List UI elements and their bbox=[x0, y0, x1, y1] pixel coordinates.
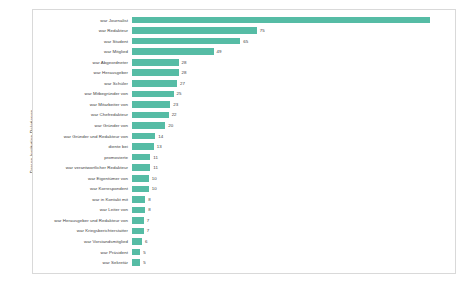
bar-category-label: war Korrespondent bbox=[34, 186, 132, 191]
bar-category-label: promovierte bbox=[34, 155, 132, 160]
bar-value-label: 7 bbox=[144, 228, 150, 233]
bar-value-label: 179 bbox=[440, 18, 450, 23]
bar-rect bbox=[132, 259, 140, 266]
bar-rect bbox=[132, 154, 150, 161]
bar-row: war Chefredakteur22 bbox=[34, 111, 450, 119]
bar-track: 7 bbox=[132, 227, 450, 235]
bar-row: war Präsident5 bbox=[34, 248, 450, 256]
bar-value-label: 8 bbox=[145, 197, 151, 202]
bar-value-label: 20 bbox=[165, 123, 173, 128]
bar-value-label: 65 bbox=[240, 39, 248, 44]
bar-track: 6 bbox=[132, 237, 450, 245]
bar-track: 20 bbox=[132, 121, 450, 129]
bar-row: war Mitbegründer von25 bbox=[34, 90, 450, 98]
bar-track: 28 bbox=[132, 58, 450, 66]
bar-row: war in Kontakt mit8 bbox=[34, 195, 450, 203]
bar-row: war Gründer und Redakteur von14 bbox=[34, 132, 450, 140]
bar-track: 11 bbox=[132, 153, 450, 161]
bar-row: war Kriegsberichterstatter7 bbox=[34, 227, 450, 235]
bar-value-label: 6 bbox=[142, 239, 148, 244]
bar-value-label: 49 bbox=[214, 49, 222, 54]
bar-track: 11 bbox=[132, 164, 450, 172]
bars-container: war Journalist179war Redakteur75war Stud… bbox=[34, 11, 454, 272]
bar-category-label: war Mitglied bbox=[34, 49, 132, 54]
bar-value-label: 28 bbox=[179, 60, 187, 65]
bar-category-label: war Eigentümer von bbox=[34, 176, 132, 181]
bar-category-label: war Sekretär bbox=[34, 260, 132, 265]
bar-category-label: war Mitbegründer von bbox=[34, 91, 132, 96]
bar-category-label: war Journalist bbox=[34, 18, 132, 23]
bar-category-label: war Präsident bbox=[34, 250, 132, 255]
bar-value-label: 22 bbox=[169, 112, 177, 117]
bar-track: 10 bbox=[132, 174, 450, 182]
bar-track: 5 bbox=[132, 248, 450, 256]
bar-rect bbox=[132, 164, 150, 171]
bar-category-label: war Gründer und Redakteur von bbox=[34, 134, 132, 139]
bar-rect bbox=[132, 186, 149, 193]
bar-value-label: 28 bbox=[179, 70, 187, 75]
bar-track: 179 bbox=[132, 16, 450, 24]
bar-track: 22 bbox=[132, 111, 450, 119]
bar-row: war Leiter von8 bbox=[34, 206, 450, 214]
bar-category-label: war Herausgeber bbox=[34, 70, 132, 75]
bar-category-label: war Chefredakteur bbox=[34, 112, 132, 117]
bar-value-label: 13 bbox=[154, 144, 162, 149]
bar-track: 25 bbox=[132, 90, 450, 98]
bar-category-label: war verantwortlicher Redakteur bbox=[34, 165, 132, 170]
bar-category-label: war in Kontakt mit bbox=[34, 197, 132, 202]
bar-rect bbox=[132, 175, 149, 182]
bar-row: war Redakteur75 bbox=[34, 27, 450, 35]
bar-track: 8 bbox=[132, 206, 450, 214]
bar-category-label: war Abgeordneter bbox=[34, 60, 132, 65]
bar-rect bbox=[132, 207, 145, 214]
bar-rect bbox=[132, 238, 142, 245]
bar-track: 7 bbox=[132, 216, 450, 224]
bar-chart-figure: Person-Institution-Relationen war Journa… bbox=[0, 0, 466, 283]
bar-value-label: 23 bbox=[170, 102, 178, 107]
bar-value-label: 7 bbox=[144, 218, 150, 223]
bar-track: 10 bbox=[132, 185, 450, 193]
bar-row: war Mitglied49 bbox=[34, 48, 450, 56]
bar-track: 28 bbox=[132, 69, 450, 77]
bar-row: war Herausgeber und Redakteur von7 bbox=[34, 216, 450, 224]
bar-category-label: war Leiter von bbox=[34, 207, 132, 212]
bar-rect bbox=[132, 112, 169, 119]
bar-row: war Student65 bbox=[34, 37, 450, 45]
bar-row: war Gründer von20 bbox=[34, 121, 450, 129]
bar-value-label: 8 bbox=[145, 207, 151, 212]
bar-track: 75 bbox=[132, 27, 450, 35]
bar-track: 49 bbox=[132, 48, 450, 56]
bar-value-label: 5 bbox=[140, 250, 146, 255]
bar-rect bbox=[132, 48, 214, 55]
bar-track: 8 bbox=[132, 195, 450, 203]
bar-rect bbox=[132, 38, 240, 45]
bar-row: promovierte11 bbox=[34, 153, 450, 161]
bar-value-label: 27 bbox=[177, 81, 185, 86]
bar-rect bbox=[132, 143, 154, 150]
bar-track: 14 bbox=[132, 132, 450, 140]
plot-area: war Journalist179war Redakteur75war Stud… bbox=[32, 9, 456, 274]
bar-row: war Herausgeber28 bbox=[34, 69, 450, 77]
bar-track: 23 bbox=[132, 100, 450, 108]
bar-value-label: 10 bbox=[149, 176, 157, 181]
bar-row: war Schüler27 bbox=[34, 79, 450, 87]
bar-category-label: diente bei bbox=[34, 144, 132, 149]
bar-track: 65 bbox=[132, 37, 450, 45]
bar-value-label: 10 bbox=[149, 186, 157, 191]
bar-category-label: war Herausgeber und Redakteur von bbox=[34, 218, 132, 223]
bar-value-label: 14 bbox=[155, 134, 163, 139]
bar-rect bbox=[132, 80, 177, 87]
bar-category-label: war Mitarbeiter von bbox=[34, 102, 132, 107]
bar-rect bbox=[132, 122, 165, 129]
bar-category-label: war Gründer von bbox=[34, 123, 132, 128]
bar-row: war Vorstandsmitglied6 bbox=[34, 237, 450, 245]
bar-value-label: 75 bbox=[257, 28, 265, 33]
bar-rect bbox=[132, 59, 179, 66]
bar-row: war verantwortlicher Redakteur11 bbox=[34, 164, 450, 172]
bar-rect bbox=[132, 228, 144, 235]
bar-row: war Abgeordneter28 bbox=[34, 58, 450, 66]
bar-rect bbox=[132, 196, 145, 203]
bar-rect: 179 bbox=[132, 17, 430, 24]
bar-value-label: 5 bbox=[140, 260, 146, 265]
bar-rect bbox=[132, 27, 257, 34]
